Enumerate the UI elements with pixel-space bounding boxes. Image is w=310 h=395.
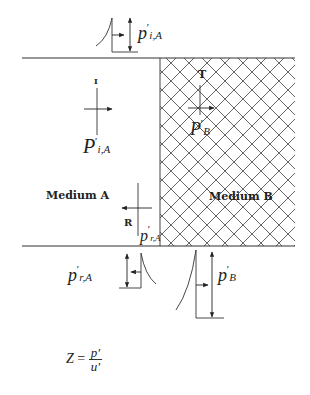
reflected-marker-label: R [124, 218, 132, 228]
medium-a-label: Medium A [46, 190, 109, 201]
incident-pulse-icon [96, 18, 138, 52]
transmitted-marker-label: T [198, 69, 206, 80]
bottom-reflected-pulse-label: p'r,A [68, 266, 92, 284]
medium-b-label: Medium B [209, 191, 273, 202]
bottom-transmitted-pulse-label: p'B [218, 266, 236, 284]
incident-wave-arrow-icon [84, 88, 112, 135]
impedance-equation: Z = p' u' [66, 346, 102, 373]
top-incident-pulse-label: p'i,A [138, 24, 162, 42]
equation-fraction: p' u' [89, 346, 102, 373]
incident-marker-label: I [94, 77, 98, 85]
medium-b-region [160, 58, 295, 246]
reflected-pressure-label: p'r,A [140, 228, 161, 244]
transmitted-pulse-icon [176, 250, 224, 318]
reflected-pulse-icon [119, 253, 156, 288]
transmitted-pressure-label: P'B [190, 120, 210, 138]
incident-pressure-label: P'i,A [83, 136, 110, 156]
